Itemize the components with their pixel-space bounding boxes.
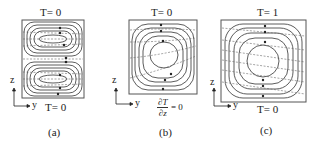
bottom-boundary-derivative: ∂T ∂z — [157, 97, 168, 118]
panel-a: T= 0 — [0, 0, 104, 153]
z-axis-label: z — [112, 74, 116, 85]
arrow-marker — [264, 31, 266, 33]
isotherm — [130, 29, 196, 30]
arrow-marker — [160, 30, 162, 32]
panel-c: T= 1 — [205, 0, 309, 153]
streamline — [247, 45, 279, 77]
derivative-denominator: ∂z — [159, 108, 167, 118]
axes-indicator — [115, 88, 134, 106]
z-axis-label: z — [10, 74, 14, 85]
arrow-marker — [59, 87, 61, 89]
arrow-marker — [59, 27, 61, 29]
arrow-marker — [170, 73, 172, 75]
streamline — [150, 42, 178, 68]
arrow-marker — [162, 88, 164, 90]
arrow-marker — [65, 61, 68, 64]
isotherms — [23, 32, 83, 86]
isotherm — [130, 56, 196, 78]
isotherm — [222, 28, 305, 36]
y-arrowhead — [228, 105, 231, 108]
arrow-marker — [264, 41, 266, 43]
arrow-marker — [63, 44, 65, 46]
y-axis-label: y — [233, 99, 238, 110]
derivative-rhs: = 0 — [171, 102, 183, 112]
isotherm — [222, 50, 305, 62]
arrow-marker — [65, 57, 68, 60]
panel-caption: (c) — [260, 124, 272, 136]
arrow-marker — [262, 85, 264, 87]
arrow-marker — [262, 79, 264, 81]
z-arrowhead — [115, 88, 118, 91]
z-arrowhead — [13, 88, 16, 91]
flow-arrows — [160, 24, 172, 90]
panel-caption: (a) — [48, 126, 60, 138]
flow-arrows — [262, 25, 266, 97]
y-axis-label: y — [32, 99, 37, 110]
isotherm — [130, 46, 196, 58]
arrow-marker — [160, 24, 162, 26]
arrow-marker — [264, 25, 266, 27]
bottom-boundary-label: T= 0 — [257, 103, 278, 115]
arrow-marker — [162, 40, 164, 42]
arrow-marker — [59, 32, 61, 34]
y-arrowhead — [130, 103, 133, 106]
panel-b: T= 0 z y — [103, 0, 207, 153]
arrow-marker — [164, 79, 166, 81]
y-arrowhead — [27, 105, 30, 108]
bottom-boundary-label: T= 0 — [45, 101, 66, 113]
streamline-plot-b — [103, 0, 207, 153]
z-arrowhead — [213, 88, 216, 91]
panel-caption: (b) — [159, 126, 172, 138]
arrow-marker — [59, 74, 61, 76]
z-axis-label: z — [210, 76, 214, 87]
isotherm — [222, 60, 305, 72]
arrow-marker — [57, 93, 59, 95]
derivative-numerator: ∂T — [157, 97, 168, 108]
arrow-marker — [262, 95, 264, 97]
y-axis-label: y — [135, 97, 140, 108]
streamline-plot-c — [205, 0, 311, 153]
